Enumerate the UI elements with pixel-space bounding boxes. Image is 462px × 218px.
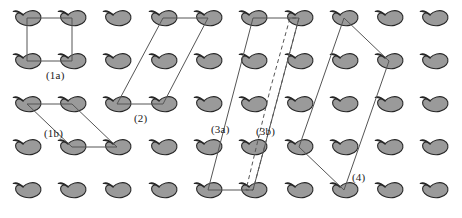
comma-motif — [149, 140, 177, 155]
comma-motif — [13, 183, 41, 198]
comma-motif — [13, 140, 41, 155]
lattice-canvas — [0, 0, 462, 218]
comma-motif — [420, 97, 448, 112]
comma-motif — [239, 97, 267, 112]
comma-motif — [285, 97, 313, 112]
comma-motif — [330, 97, 358, 112]
unit-cell-label-4: (4) — [352, 172, 365, 183]
unit-cell-label-1b: (1b) — [44, 128, 63, 139]
comma-motif — [58, 183, 86, 198]
comma-motif — [103, 54, 131, 69]
comma-motif — [149, 54, 177, 69]
comma-motif — [375, 11, 403, 26]
comma-motif — [420, 54, 448, 69]
comma-motif — [420, 140, 448, 155]
unit-cell-label-1a: (1a) — [46, 70, 65, 81]
lattice-figure: (1a)(1b)(2)(3a)(3b)(4) — [0, 0, 462, 218]
comma-motif — [149, 183, 177, 198]
unit-cell-label-3a: (3a) — [211, 124, 230, 135]
comma-motif — [375, 97, 403, 112]
comma-motif — [194, 54, 222, 69]
comma-motif — [194, 97, 222, 112]
comma-motif — [375, 140, 403, 155]
unit-cell-label-2: (2) — [134, 113, 147, 124]
comma-motif — [375, 183, 403, 198]
comma-motif — [285, 183, 313, 198]
comma-motif — [420, 183, 448, 198]
comma-motif — [330, 140, 358, 155]
comma-motif — [103, 183, 131, 198]
unit-cell-label-3b: (3b) — [256, 126, 275, 137]
comma-motif — [330, 54, 358, 69]
comma-motif — [103, 11, 131, 26]
comma-motif — [420, 11, 448, 26]
